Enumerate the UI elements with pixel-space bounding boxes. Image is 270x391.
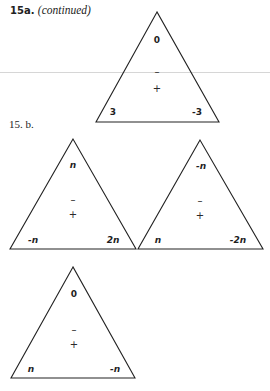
plus-sign: + — [69, 209, 77, 220]
triangle-bottom-right-value: -3 — [192, 107, 202, 117]
triangle-top-value: 0 — [154, 35, 160, 45]
triangle-outlines — [0, 0, 270, 391]
triangle-top-value: -n — [196, 161, 206, 171]
minus-sign: – — [155, 66, 160, 77]
plus-sign: + — [196, 210, 204, 221]
triangle-15b-3 — [11, 267, 135, 378]
triangle-bottom-right-value: -2n — [230, 235, 246, 245]
triangle-bottom-right-value: -n — [110, 364, 120, 374]
minus-sign: – — [71, 194, 76, 205]
plus-sign: + — [153, 83, 161, 94]
triangle-bottom-left-value: n — [155, 235, 161, 245]
triangle-bottom-left-value: -n — [28, 235, 38, 245]
minus-sign: – — [198, 195, 203, 206]
plus-sign: + — [70, 339, 78, 350]
triangle-bottom-right-value: 2n — [107, 235, 120, 245]
triangle-bottom-left-value: 3 — [110, 107, 116, 117]
triangle-top-value: 0 — [71, 289, 77, 299]
triangle-top-value: n — [70, 160, 76, 170]
minus-sign: – — [72, 324, 77, 335]
triangle-bottom-left-value: n — [28, 364, 34, 374]
